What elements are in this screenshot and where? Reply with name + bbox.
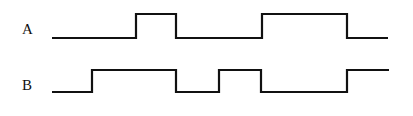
signal-a-waveform (52, 14, 388, 38)
waveform-canvas (0, 0, 413, 116)
timing-diagram: A B (0, 0, 413, 116)
signal-b-waveform (52, 70, 389, 92)
signal-a-label: A (22, 22, 33, 37)
signal-b-label: B (22, 78, 32, 93)
